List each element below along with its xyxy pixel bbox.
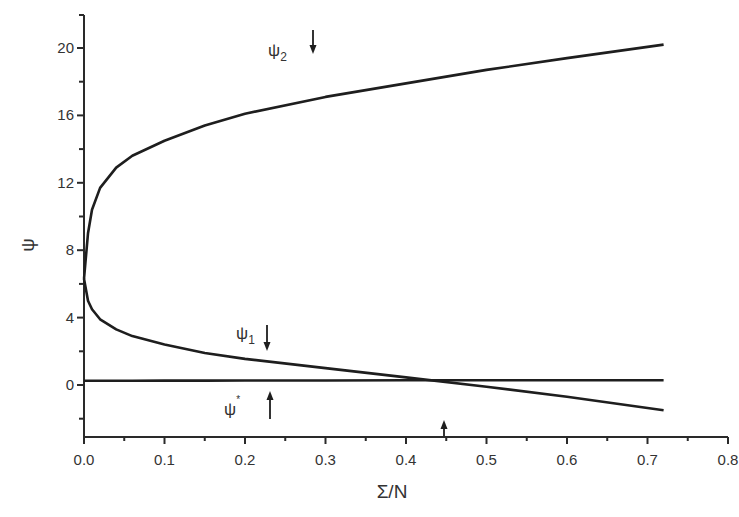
curve-ψ1 [84,279,664,411]
curves [84,45,664,411]
x-axis-title: Σ/N [377,481,408,502]
y-tick-label: 8 [66,241,74,258]
axes: 0481216200.00.10.20.30.40.50.60.70.8 [57,15,738,468]
crossing-arrow-up-icon [441,420,448,436]
y-axis-title: ψ [17,238,38,252]
x-tick-label: 0.7 [637,451,658,468]
x-tick-label: 0.5 [476,451,497,468]
x-tick-label: 0.4 [396,451,417,468]
psi1-arrow-down-icon [264,325,271,351]
curve-ψ* [84,380,664,381]
psi-star-arrow-up-icon [267,391,274,419]
y-tick-label: 4 [66,309,74,326]
x-tick-label: 0.8 [718,451,739,468]
y-tick-label: 16 [57,106,74,123]
psi2-arrow-down-icon [310,30,317,54]
annotations: ψ2 ψ1 ψ* [224,30,448,436]
x-tick-label: 0.3 [315,451,336,468]
chart: 0481216200.00.10.20.30.40.50.60.70.8 ψ2 … [0,0,739,517]
x-tick-label: 0.2 [235,451,256,468]
x-tick-label: 0.1 [154,451,175,468]
psi1-label: ψ1 [236,324,255,347]
y-tick-label: 20 [57,39,74,56]
y-tick-label: 0 [66,376,74,393]
y-tick-label: 12 [57,174,74,191]
psi-star-label: ψ* [224,394,240,419]
psi2-label: ψ2 [268,41,287,64]
x-tick-label: 0.0 [74,451,95,468]
curve-ψ2 [84,45,664,279]
x-tick-label: 0.6 [557,451,578,468]
